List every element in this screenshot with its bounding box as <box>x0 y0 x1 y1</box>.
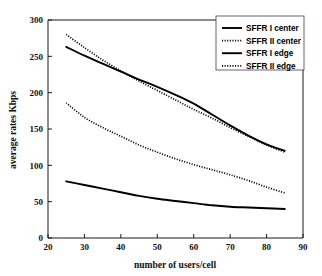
x-tick-label: 50 <box>153 242 163 252</box>
x-tick-label: 40 <box>116 242 126 252</box>
series-line-3 <box>66 103 285 193</box>
legend-label-3: SFFR II edge <box>246 62 296 71</box>
x-tick-label: 20 <box>44 242 54 252</box>
y-tick-label: 250 <box>30 52 44 62</box>
x-axis-title: number of users/cell <box>134 260 217 270</box>
y-tick-label: 200 <box>30 88 44 98</box>
x-axis-ticks: 2030405060708090 <box>44 234 309 252</box>
legend-label-2: SFFR I edge <box>246 49 294 58</box>
x-tick-label: 90 <box>299 242 309 252</box>
y-axis-title: average rates Kbps <box>8 91 18 169</box>
y-tick-label: 50 <box>34 197 44 207</box>
line-chart-canvas: 050100150200250300 2030405060708090 numb… <box>0 0 322 276</box>
chart-figure: 050100150200250300 2030405060708090 numb… <box>0 0 322 276</box>
y-tick-label: 100 <box>30 161 44 171</box>
x-tick-label: 60 <box>189 242 199 252</box>
series-line-2 <box>66 181 285 209</box>
y-tick-label: 300 <box>30 15 44 25</box>
legend-label-1: SFFR II center <box>246 37 302 46</box>
x-tick-label: 80 <box>262 242 272 252</box>
legend-label-0: SFFR I center <box>246 24 300 33</box>
x-tick-label: 70 <box>226 242 236 252</box>
y-axis-ticks: 050100150200250300 <box>30 15 53 243</box>
x-tick-label: 30 <box>80 242 90 252</box>
y-tick-label: 150 <box>30 124 44 134</box>
chart-legend[interactable]: SFFR I centerSFFR II centerSFFR I edgeSF… <box>216 16 304 71</box>
